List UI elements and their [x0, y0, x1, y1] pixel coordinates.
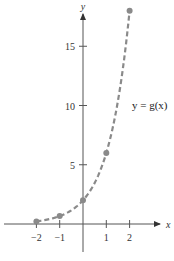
y-axis-label: y — [80, 1, 86, 12]
data-point — [33, 218, 39, 224]
data-point — [103, 150, 109, 156]
data-point — [127, 8, 133, 14]
function-graph: x y −2−112 51015 y = g(x) — [0, 0, 174, 261]
data-point — [80, 197, 86, 203]
x-ticks: −2−112 — [31, 220, 132, 243]
x-axis-label: x — [165, 219, 171, 230]
y-tick-label: 10 — [65, 101, 75, 112]
x-tick-label: 1 — [104, 232, 109, 243]
y-tick-label: 15 — [65, 41, 75, 52]
curve-equation-label: y = g(x) — [132, 99, 168, 112]
x-tick-label: −2 — [31, 232, 42, 243]
x-tick-label: −1 — [54, 232, 65, 243]
x-tick-label: 2 — [127, 232, 132, 243]
y-tick-label: 5 — [70, 160, 75, 171]
y-ticks: 51015 — [65, 41, 87, 171]
data-point — [57, 213, 63, 219]
